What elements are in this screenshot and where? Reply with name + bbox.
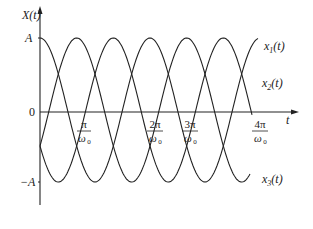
svg-text:ω: ω	[78, 132, 86, 144]
series-label-x3: x3(t)	[261, 172, 283, 188]
svg-text:2π: 2π	[149, 118, 161, 130]
svg-text:ω: ω	[184, 132, 192, 144]
svg-text:0: 0	[87, 138, 91, 146]
svg-text:3π: 3π	[184, 118, 196, 130]
tick-label-2pi: 2π ω 0	[147, 118, 163, 146]
tick-label-negA: −A	[20, 175, 36, 189]
series-label-x2: x2(t)	[261, 76, 283, 92]
svg-text:0: 0	[158, 138, 162, 146]
three-phase-waveform-diagram: X(t) A 0 −A t π ω 0 2π ω 0 3π ω 0 4π ω	[0, 0, 313, 229]
tick-label-A: A	[24, 31, 33, 45]
svg-text:0: 0	[193, 138, 197, 146]
y-axis-label: X(t)	[21, 8, 41, 22]
svg-text:0: 0	[263, 138, 267, 146]
tick-label-pi: π ω 0	[77, 118, 91, 146]
x-axis-arrow-icon	[291, 110, 299, 115]
series-label-x1: x1(t)	[263, 39, 285, 55]
svg-text:ω: ω	[149, 132, 157, 144]
tick-label-zero: 0	[29, 105, 35, 119]
svg-text:ω: ω	[254, 132, 262, 144]
tick-label-4pi: 4π ω 0	[252, 118, 268, 146]
svg-text:4π: 4π	[254, 118, 266, 130]
tick-label-3pi: 3π ω 0	[182, 118, 198, 146]
svg-text:π: π	[81, 118, 87, 130]
curves	[40, 38, 258, 182]
x-axis-label: t	[286, 113, 290, 127]
plot-area: X(t) A 0 −A t π ω 0 2π ω 0 3π ω 0 4π ω	[0, 0, 313, 229]
